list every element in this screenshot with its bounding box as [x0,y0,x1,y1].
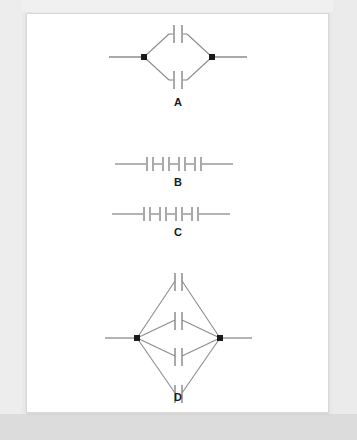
document-page: A B [26,13,329,413]
diagram-a-lower-branch-right-wire [187,57,212,80]
page-background-bottom [0,414,357,440]
diagram-b-label: B [174,176,182,188]
capacitor-circuits-figure: A B [27,14,330,414]
diagram-a-upper-branch-right-wire [187,34,212,57]
diagram-a-node-left [141,54,147,60]
diagram-a: A [109,25,247,108]
page-background-left [0,0,22,440]
diagram-a-label: A [174,96,182,108]
diagram-c: C [112,207,230,238]
diagram-d-node-left [134,335,140,341]
page-background-right [333,0,357,440]
diagram-d-node-right [217,335,223,341]
screenshot-viewport: A B [0,0,357,440]
page-background-top [0,0,357,12]
diagram-d-branch-4-right-wire [182,338,220,393]
diagram-b: B [115,157,233,188]
diagram-a-lower-branch-left-wire [144,57,169,80]
diagram-d-branch-4-left-wire [137,338,175,393]
diagram-d: D [105,273,252,403]
diagram-c-label: C [174,226,182,238]
diagram-d-label: D [174,391,182,403]
diagram-a-node-right [209,54,215,60]
diagram-a-upper-branch-left-wire [144,34,169,57]
